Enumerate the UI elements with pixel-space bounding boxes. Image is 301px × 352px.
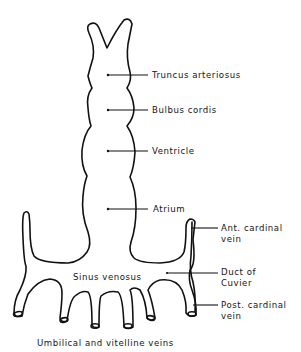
label-truncus-arteriosus: Truncus arteriosus (152, 70, 241, 80)
label-duct-of-cuvier-line2: Cuvier (221, 278, 252, 288)
label-sinus-venosus: Sinus venosus (73, 272, 142, 282)
leader-dot-atrium (107, 208, 109, 210)
label-ant-cardinal-line1: Ant. cardinal (221, 223, 283, 233)
vitelline-end-3 (124, 324, 132, 328)
label-ant-cardinal-line2: vein (221, 234, 241, 244)
label-bulbus-cordis: Bulbus cordis (152, 105, 217, 115)
label-post-cardinal-line1: Post. cardinal (221, 300, 286, 310)
leader-dot-duct (166, 272, 168, 274)
vitelline-end-1 (60, 317, 69, 323)
heart-tube-outline (14, 19, 196, 328)
leader-dot-ventricle (107, 150, 109, 152)
vitelline-end-4 (147, 315, 156, 321)
leader-dot-truncus (107, 74, 109, 76)
leader-dot-bulbus (107, 109, 109, 111)
label-duct-of-cuvier-line1: Duct of (221, 267, 256, 277)
label-ventricle: Ventricle (152, 146, 195, 156)
label-umbilical-vitelline-veins: Umbilical and vitelline veins (37, 338, 174, 348)
label-atrium: Atrium (153, 204, 185, 214)
label-post-cardinal-line2: vein (221, 311, 241, 321)
